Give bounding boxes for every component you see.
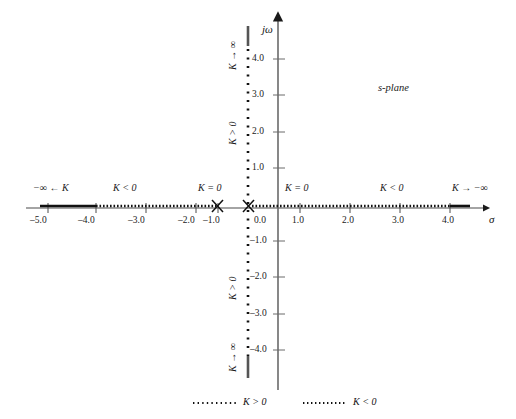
y-tick-label: 3.0 [252, 90, 264, 100]
x-tick-label: 2.0 [342, 216, 354, 226]
annotation-lower-k-infinity: K → ∞ [228, 343, 238, 372]
annotation-upper-k-infinity: K → ∞ [228, 41, 238, 70]
x-tick-label: 3.0 [392, 216, 404, 226]
y-tick-label: 4.0 [252, 54, 264, 64]
root-locus-figure: –5.0 –4.0 –3.0 –2.0 –1.0 0.0 1.0 2.0 3.0… [0, 0, 516, 419]
annotation-pole-k-zero: K = 0 [198, 183, 221, 193]
x-tick-label: 1.0 [292, 216, 304, 226]
annotation-right-k-negative: K < 0 [380, 183, 403, 193]
legend-label-k-positive: K > 0 [243, 397, 266, 407]
y-tick-label: 1.0 [252, 163, 264, 173]
x-tick-label: –1.0 [203, 216, 220, 226]
y-tick-label: –4.0 [250, 345, 267, 355]
x-tick-label: –5.0 [30, 216, 47, 226]
sigma-axis-label: σ [489, 214, 494, 225]
y-tick-label: –3.0 [250, 309, 267, 319]
annotation-right-infinity: K → −∞ [452, 183, 488, 193]
x-tick-label: 0.0 [254, 216, 266, 226]
annotation-left-k-negative: K < 0 [113, 183, 136, 193]
jomega-axis-label: jω [262, 24, 273, 35]
annotation-upper-k-positive: K > 0 [228, 122, 238, 145]
x-tick-label: 4.0 [442, 216, 454, 226]
legend-label-k-negative: K < 0 [353, 397, 376, 407]
y-tick-label: –2.0 [250, 272, 267, 282]
annotation-lower-k-positive: K > 0 [228, 277, 238, 300]
x-tick-label: –2.0 [178, 216, 195, 226]
s-plane-label: s-plane [378, 83, 409, 94]
jomega-axis-ticks [273, 59, 285, 350]
y-tick-label: 2.0 [252, 127, 264, 137]
annotation-origin-k-zero: K = 0 [285, 183, 308, 193]
annotation-left-infinity: −∞ ← K [33, 183, 69, 193]
y-tick-label: –1.0 [250, 236, 267, 246]
x-tick-label: –3.0 [128, 216, 145, 226]
x-tick-label: –4.0 [78, 216, 95, 226]
